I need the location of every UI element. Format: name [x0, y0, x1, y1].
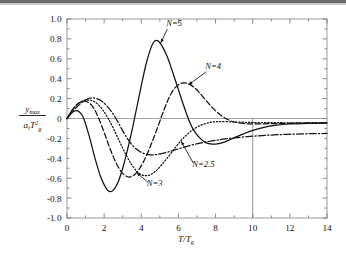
x-tick-label: 8: [213, 223, 218, 233]
y-tick-label: -0.6: [47, 174, 62, 184]
x-axis-tick-labels: 02468101214: [65, 223, 332, 233]
y-tick-label: -0.4: [47, 154, 62, 164]
x-tick-label: 4: [139, 223, 144, 233]
y-tick-label: 1.0: [50, 14, 62, 24]
x-tick-label: 14: [322, 223, 332, 233]
x-tick-label: 12: [285, 223, 295, 233]
annotation-arrowhead: [181, 141, 184, 145]
curve-n25: [67, 98, 327, 155]
x-tick-label: 2: [102, 223, 107, 233]
chart-figure: 02468101214 1.00.80.60.40.20-0.2-0.4-0.6…: [0, 0, 346, 259]
svg-text:ymax: ymax: [24, 104, 40, 115]
y-tick-label: -0.2: [47, 134, 62, 144]
x-axis-title: T/Tg: [178, 234, 195, 245]
curve-label-n5: N=5: [165, 18, 183, 28]
svg-text:atT2g: atT2g: [24, 119, 43, 132]
x-axis-title-den-sub: g: [191, 238, 195, 245]
line-chart: 02468101214 1.00.80.60.40.20-0.2-0.4-0.6…: [0, 0, 346, 259]
curve-label-n25: N=2.5: [191, 159, 215, 169]
y-tick-label: 0.4: [50, 74, 62, 84]
x-tick-label: 10: [248, 223, 258, 233]
y-axis-title: ymax atT2g: [19, 104, 46, 132]
x-tick-label: 0: [65, 223, 70, 233]
y-axis-tick-labels: 1.00.80.60.40.20-0.2-0.4-0.6-0.8-1.0: [47, 14, 62, 223]
y-tick-label: 0.6: [50, 54, 62, 64]
y-tick-label: 0.2: [50, 94, 62, 104]
y-tick-label: 0.8: [50, 34, 62, 44]
annotation-arrowhead: [161, 39, 164, 43]
x-tick-label: 6: [176, 223, 181, 233]
y-tick-label: 0: [57, 114, 62, 124]
y-tick-label: -1.0: [47, 213, 62, 223]
y-tick-label: -0.8: [47, 194, 62, 204]
curve-label-n4: N=4: [204, 61, 222, 71]
y-axis-title-num-sub: max: [29, 108, 40, 115]
y-axis-title-den-sub2: g: [38, 125, 42, 132]
svg-text:T/Tg: T/Tg: [178, 234, 195, 245]
curve-label-n3: N=3: [146, 178, 163, 188]
